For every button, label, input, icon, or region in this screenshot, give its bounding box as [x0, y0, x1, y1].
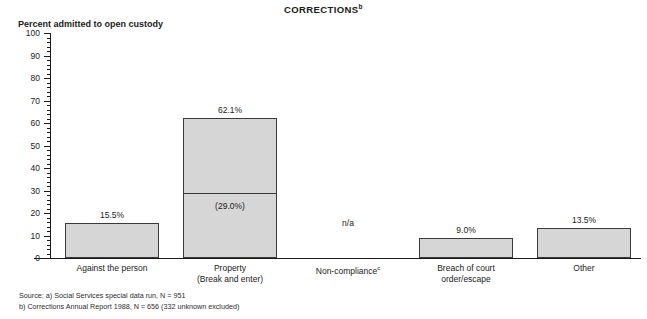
y-tick-minor [47, 159, 51, 160]
y-tick-minor [47, 173, 51, 174]
bar-value-label-against-the-person: 15.5% [62, 210, 162, 220]
bar-sub-segment-value: (29.0%) [180, 201, 280, 211]
y-tick-minor [47, 182, 51, 183]
y-tick-major [44, 168, 51, 169]
y-tick-major [44, 56, 51, 57]
y-tick-major [44, 33, 51, 34]
y-tick-label: 90 [12, 52, 40, 61]
bar-value-label-breach-of-court-order-escape: 9.0% [416, 225, 516, 235]
y-tick-label: 40 [12, 164, 40, 173]
y-tick-minor [47, 42, 51, 43]
category-label-line: Other [514, 263, 647, 274]
x-axis-line [34, 258, 641, 259]
y-tick-minor [47, 137, 51, 138]
y-tick-minor [47, 204, 51, 205]
y-tick-minor [47, 74, 51, 75]
y-tick-minor [47, 249, 51, 250]
y-tick-label: 0 [12, 254, 40, 263]
y-tick-minor [47, 195, 51, 196]
y-tick-label: 30 [12, 187, 40, 196]
y-tick-minor [47, 132, 51, 133]
y-tick-minor [47, 69, 51, 70]
y-tick-minor [47, 96, 51, 97]
y-tick-label: 80 [12, 74, 40, 83]
bar-sub-segment-divider [183, 193, 277, 194]
y-tick-minor [47, 114, 51, 115]
y-tick-major [44, 123, 51, 124]
y-tick-minor [47, 245, 51, 246]
bar-value-label-other: 13.5% [534, 215, 634, 225]
source-note-b: b) Corrections Annual Report 1988, N = 6… [19, 302, 239, 313]
y-tick-minor [47, 87, 51, 88]
y-tick-minor [47, 177, 51, 178]
bar-against-the-person [65, 223, 159, 258]
y-tick-label: 70 [12, 97, 40, 106]
y-tick-label: 50 [12, 142, 40, 151]
chart-title-superscript: b [359, 3, 363, 10]
y-tick-label: 100 [12, 29, 40, 38]
y-tick-minor [47, 200, 51, 201]
category-label-superscript: c [377, 265, 380, 271]
y-tick-label: 60 [12, 119, 40, 128]
y-tick-minor [47, 155, 51, 156]
y-tick-minor [47, 141, 51, 142]
bar-value-label-non-compliance: n/a [298, 218, 398, 228]
y-tick-minor [47, 105, 51, 106]
y-tick-minor [47, 227, 51, 228]
y-tick-label: 20 [12, 209, 40, 218]
y-tick-major [44, 258, 51, 259]
y-tick-minor [47, 47, 51, 48]
y-tick-minor [47, 128, 51, 129]
y-tick-minor [47, 150, 51, 151]
y-tick-major [44, 146, 51, 147]
y-tick-minor [47, 60, 51, 61]
y-tick-minor [47, 240, 51, 241]
bar-breach-of-court-order-escape [419, 238, 513, 258]
y-tick-minor [47, 231, 51, 232]
y-tick-minor [47, 254, 51, 255]
y-tick-minor [47, 222, 51, 223]
source-notes: Source: a) Social Services special data … [19, 291, 239, 312]
y-tick-minor [47, 92, 51, 93]
y-tick-minor [47, 51, 51, 52]
y-tick-major [44, 78, 51, 79]
category-label-line: order/escape [396, 274, 536, 285]
chart-title: CORRECTIONSb [0, 3, 647, 15]
y-tick-major [44, 191, 51, 192]
y-tick-minor [47, 83, 51, 84]
y-tick-label: 10 [12, 232, 40, 241]
y-tick-major [44, 213, 51, 214]
bar-property-break-and-enter [183, 118, 277, 258]
y-tick-minor [47, 186, 51, 187]
y-tick-minor [47, 119, 51, 120]
bar-other [537, 228, 631, 258]
y-tick-minor [47, 218, 51, 219]
y-tick-minor [47, 209, 51, 210]
y-tick-major [44, 101, 51, 102]
bar-value-label-property-break-and-enter: 62.1% [180, 105, 280, 115]
y-tick-minor [47, 164, 51, 165]
y-tick-minor [47, 38, 51, 39]
category-label-other: Other [514, 263, 647, 274]
source-note-a: Source: a) Social Services special data … [19, 291, 239, 302]
chart-title-text: CORRECTIONS [284, 4, 359, 15]
y-tick-major [44, 236, 51, 237]
y-tick-minor [47, 110, 51, 111]
y-tick-minor [47, 65, 51, 66]
